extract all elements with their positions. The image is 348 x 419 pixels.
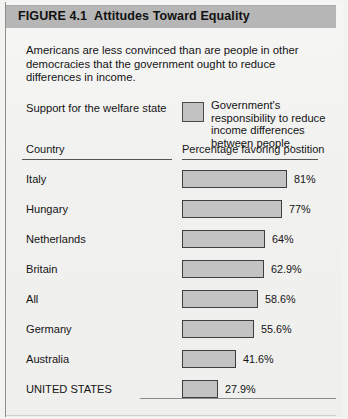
- category-label: Netherlands: [26, 233, 86, 245]
- bar: [182, 260, 264, 278]
- bar-value-label: 77%: [289, 203, 311, 215]
- figure-title-band: FIGURE 4.1Attitudes Toward Equality: [6, 5, 336, 28]
- column-header-country: Country: [26, 143, 65, 155]
- column-rule-country: [22, 159, 172, 160]
- category-label: All: [26, 293, 38, 305]
- chart-row: Hungary77%: [0, 195, 348, 225]
- bar-value-label: 58.6%: [265, 293, 296, 305]
- bar: [182, 380, 218, 398]
- bar: [182, 350, 236, 368]
- page-title: FIGURE 4.1Attitudes Toward Equality: [18, 9, 250, 23]
- column-rule-percentage: [182, 159, 318, 160]
- bar-value-label: 81%: [294, 173, 316, 185]
- figure-number: FIGURE 4.1: [18, 9, 87, 23]
- chart-row: All58.6%: [0, 285, 348, 315]
- chart-row: Britain62.9%: [0, 255, 348, 285]
- category-label: UNITED STATES: [26, 383, 112, 395]
- chart-row: Germany55.6%: [0, 315, 348, 345]
- column-header-percentage: Percentage favoring postition: [182, 143, 324, 155]
- chart-row: UNITED STATES27.9%: [0, 375, 348, 405]
- chart-row: Netherlands64%: [0, 225, 348, 255]
- bar-value-label: 27.9%: [225, 383, 256, 395]
- category-label: Hungary: [26, 203, 68, 215]
- legend-description: Government's responsibility to reduce in…: [211, 99, 346, 149]
- chart-row: Italy81%: [0, 165, 348, 195]
- bar: [182, 200, 282, 218]
- bar-value-label: 55.6%: [261, 323, 292, 335]
- figure-title: Attitudes Toward Equality: [94, 9, 250, 23]
- chart-row: Australia41.6%: [0, 345, 348, 375]
- bar: [182, 230, 265, 248]
- category-label: Germany: [26, 323, 72, 335]
- legend: Support for the welfare state Government…: [0, 100, 348, 136]
- bottom-edge: [6, 415, 336, 416]
- category-label: Italy: [26, 173, 46, 185]
- bar-value-label: 41.6%: [243, 353, 274, 365]
- bottom-rule: [140, 398, 336, 399]
- bar-chart-plot: Italy81%Hungary77%Netherlands64%Britain6…: [0, 165, 348, 415]
- bar-value-label: 64%: [272, 233, 294, 245]
- bar-value-label: 62.9%: [271, 263, 302, 275]
- category-label: Australia: [26, 353, 69, 365]
- bar: [182, 320, 254, 338]
- welfare-state-label: Support for the welfare state: [26, 102, 167, 114]
- figure-intro-text: Americans are less convinced than are pe…: [26, 44, 318, 85]
- category-label: Britain: [26, 263, 57, 275]
- figure-container: FIGURE 4.1Attitudes Toward Equality Amer…: [0, 0, 348, 419]
- bar: [182, 290, 258, 308]
- bar: [182, 170, 287, 188]
- legend-swatch-icon: [182, 102, 204, 122]
